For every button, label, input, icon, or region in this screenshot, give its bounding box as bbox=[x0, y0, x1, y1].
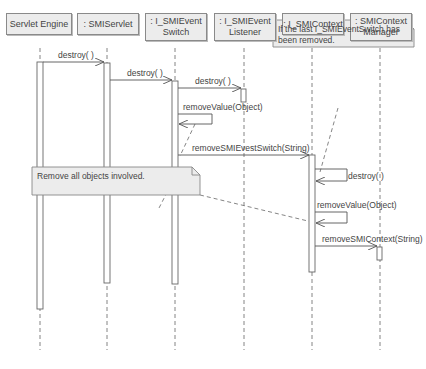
note-remove-all: Remove all objects involved. bbox=[33, 168, 183, 185]
message-label: removeValue(Object) bbox=[183, 102, 263, 112]
activation-eventlistener bbox=[241, 89, 246, 102]
object-eventswitch: : I_SMIEvent Switch bbox=[145, 13, 207, 41]
activation-contextmanager bbox=[377, 247, 382, 260]
message-label: removeValue(Object) bbox=[317, 200, 397, 210]
message-label: removeSMIEvestSwitch(String) bbox=[192, 143, 310, 153]
object-eventlistener: : I_SMIEvent Listener bbox=[214, 13, 276, 41]
message-label: destroy( ) bbox=[58, 50, 94, 60]
note-last-switch: If the last I_SMIEventSwitch has been re… bbox=[274, 21, 406, 49]
message-label: destroy( ) bbox=[348, 171, 384, 181]
object-smiservlet: : SMIServlet bbox=[77, 13, 139, 35]
message-label: removeSMIContext(String) bbox=[322, 234, 423, 244]
activation-smicontext bbox=[309, 155, 315, 272]
message-label: destroy( ) bbox=[127, 68, 163, 78]
message-label: destroy( ) bbox=[195, 76, 231, 86]
object-servlet-engine: Servlet Engine bbox=[6, 13, 72, 35]
